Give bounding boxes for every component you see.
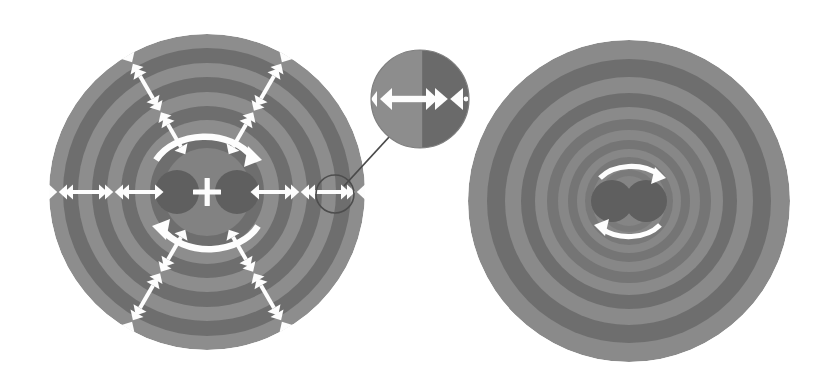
figure-canvas [0, 0, 817, 389]
wave-diagram-svg [0, 0, 817, 389]
inset-edge-dot-right [464, 97, 469, 102]
core-lobe-right [625, 180, 667, 222]
left-disk [49, 34, 365, 350]
right-disk [468, 40, 790, 362]
